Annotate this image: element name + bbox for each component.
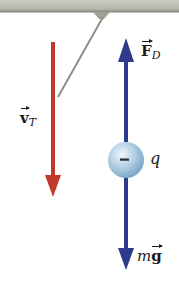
velocity-arrow	[45, 42, 61, 197]
gravity-force-label: mg	[137, 249, 162, 264]
ceiling	[0, 0, 179, 19]
negative-sign-icon	[120, 159, 129, 161]
velocity-label: vT	[20, 111, 36, 126]
free-body-diagram: vT FD q mg	[0, 0, 179, 284]
charged-sphere	[108, 142, 144, 178]
drag-force-label: FD	[141, 44, 160, 59]
gravity-force-arrow	[118, 176, 134, 270]
drag-force-arrow	[118, 38, 134, 142]
charge-label: q	[150, 151, 160, 167]
string-line	[58, 17, 103, 97]
